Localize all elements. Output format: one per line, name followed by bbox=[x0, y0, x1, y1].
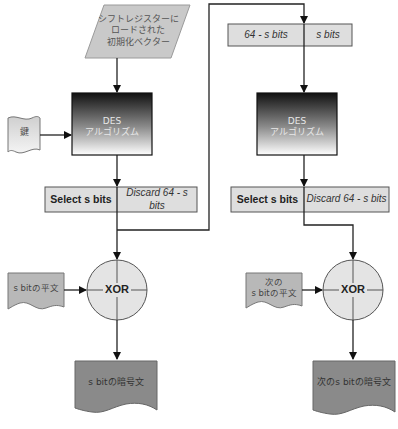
des-2-line2: アルゴリズム bbox=[270, 127, 324, 138]
flowchart-canvas bbox=[0, 0, 398, 429]
des-2-label: DES アルゴリズム bbox=[257, 110, 337, 144]
xor-1-label: XOR bbox=[103, 283, 131, 297]
shift-register-right-label: s bits bbox=[304, 24, 352, 46]
select-2-right-label: Discard 64 - s bits bbox=[304, 187, 389, 212]
xor-1-label-wrap: XOR bbox=[97, 282, 137, 298]
plaintext-1-label: s bitの平文 bbox=[8, 276, 64, 300]
ciphertext-2-label: 次のs bitの暗号文 bbox=[313, 372, 395, 394]
ciphertext-1-label: s bitの暗号文 bbox=[75, 372, 157, 394]
select-1-left-label: Select s bits bbox=[45, 187, 117, 212]
des-1-label: DES アルゴリズム bbox=[72, 110, 152, 144]
des-1-line2: アルゴリズム bbox=[85, 127, 139, 138]
des-1-line1: DES bbox=[103, 116, 121, 127]
iv-label: シフトレジスターに ロードされた 初期化ベクター bbox=[92, 7, 184, 55]
xor-2-label-wrap: XOR bbox=[333, 282, 373, 298]
plaintext-2-label: 次の s bitの平文 bbox=[246, 274, 302, 302]
select-2-left-label: Select s bits bbox=[231, 187, 304, 212]
des-2-line1: DES bbox=[288, 116, 306, 127]
key-label: 鍵 bbox=[8, 122, 40, 144]
shift-register-left-label: 64 - s bits bbox=[228, 24, 304, 46]
xor-2-label: XOR bbox=[339, 283, 367, 297]
select-1-right-label: Discard 64 - s bits bbox=[117, 187, 197, 212]
